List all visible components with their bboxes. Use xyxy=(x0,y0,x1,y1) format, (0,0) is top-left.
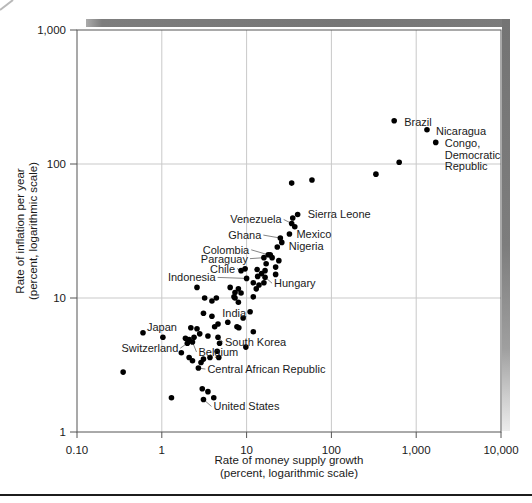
data-point xyxy=(273,264,279,270)
data-point xyxy=(201,397,207,403)
country-label: Brazil xyxy=(404,116,432,128)
data-point xyxy=(186,337,192,343)
y-tick-label: 10 xyxy=(53,292,66,304)
y-tick-label: 100 xyxy=(47,158,66,170)
data-point xyxy=(201,310,207,316)
x-axis-title-line2: (percent, logarithmic scale) xyxy=(77,467,501,480)
data-point xyxy=(295,212,301,218)
country-label: United States xyxy=(213,400,280,412)
country-label: Ghana xyxy=(228,229,262,241)
country-label: Japan xyxy=(147,321,177,333)
country-label: Sierra Leone xyxy=(308,208,371,220)
data-point xyxy=(424,127,430,133)
y-tick-label: 1 xyxy=(60,426,66,438)
data-point xyxy=(160,334,166,340)
data-point xyxy=(214,295,220,301)
country-label: Belgium xyxy=(198,346,238,358)
data-point xyxy=(202,295,208,301)
y-axis-title-line2: (percent, logarithmic scale) xyxy=(27,121,40,341)
data-point xyxy=(140,330,146,336)
country-label: Indonesia xyxy=(168,271,217,283)
data-point xyxy=(227,285,233,291)
data-point xyxy=(433,140,439,146)
y-axis-title-line1: Rate of inflation per year xyxy=(14,121,27,341)
data-point xyxy=(225,319,231,325)
data-point xyxy=(391,118,397,124)
country-label: Congo, xyxy=(445,137,480,149)
x-axis-title-line1: Rate of money supply growth xyxy=(77,454,501,467)
data-point xyxy=(236,299,242,305)
data-point xyxy=(194,285,200,291)
data-point xyxy=(373,171,379,177)
data-point xyxy=(197,331,203,337)
y-tick-label: 1,000 xyxy=(37,24,66,36)
data-point xyxy=(309,177,315,183)
data-point xyxy=(236,325,242,331)
data-point xyxy=(287,231,293,237)
data-point xyxy=(289,180,295,186)
data-point xyxy=(120,369,126,375)
country-label: Nigeria xyxy=(289,240,325,252)
x-axis-title: Rate of money supply growth (percent, lo… xyxy=(77,454,501,480)
data-point xyxy=(269,255,275,261)
data-point xyxy=(238,290,244,296)
country-label: Democratic xyxy=(445,149,501,161)
country-label: India xyxy=(222,307,247,319)
scatter-plot: 0.101101001,00010,0001,000100101BrazilNi… xyxy=(0,0,532,503)
data-point xyxy=(209,314,215,320)
data-point xyxy=(179,350,185,356)
country-label: Hungary xyxy=(274,277,316,289)
country-label: Republic xyxy=(445,160,488,172)
scatter-figure: 0.101101001,00010,0001,000100101BrazilNi… xyxy=(0,0,532,503)
data-point xyxy=(274,244,280,250)
data-point xyxy=(212,324,218,330)
data-point xyxy=(263,261,269,267)
country-label: Nicaragua xyxy=(436,125,487,137)
country-label: Venezuela xyxy=(230,213,282,225)
country-label: Switzerland xyxy=(121,342,178,354)
data-point xyxy=(290,215,296,221)
data-point xyxy=(247,309,253,315)
data-point xyxy=(254,267,260,273)
data-point xyxy=(205,389,211,395)
data-point xyxy=(199,386,205,392)
data-point xyxy=(279,240,285,246)
bottom-rule xyxy=(0,494,532,496)
data-point xyxy=(242,266,248,272)
data-point xyxy=(244,276,250,282)
data-point xyxy=(198,360,204,366)
data-point xyxy=(194,326,200,332)
data-point xyxy=(196,365,202,371)
data-point xyxy=(215,334,221,340)
data-point xyxy=(169,395,175,401)
label-leader-line xyxy=(218,277,247,278)
data-point xyxy=(261,255,267,261)
data-point xyxy=(191,334,197,340)
country-label: Mexico xyxy=(296,228,331,240)
data-point xyxy=(205,333,211,339)
data-point xyxy=(251,329,257,335)
data-point xyxy=(276,258,282,264)
data-point xyxy=(251,294,257,300)
data-point xyxy=(261,280,267,286)
data-point xyxy=(396,159,402,165)
data-point xyxy=(251,280,257,286)
data-point xyxy=(253,286,259,292)
data-point xyxy=(255,274,261,280)
data-point xyxy=(190,358,196,364)
y-axis-title: Rate of inflation per year (percent, log… xyxy=(14,121,40,341)
country-label: Central African Republic xyxy=(207,363,326,375)
data-point xyxy=(188,325,194,331)
